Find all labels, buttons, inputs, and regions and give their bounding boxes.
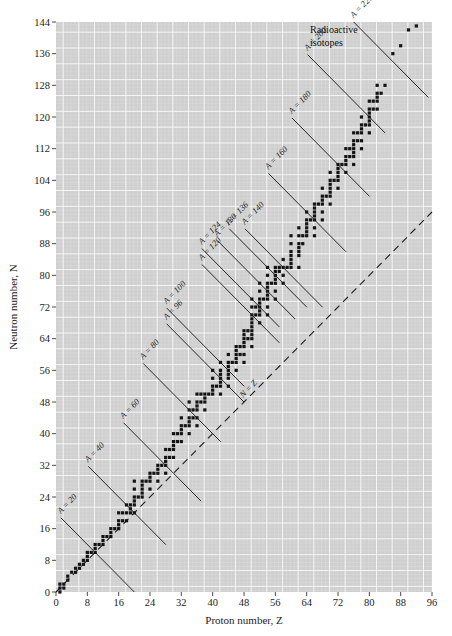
- data-point: [199, 400, 202, 403]
- data-point: [329, 195, 332, 198]
- data-point: [242, 345, 245, 348]
- data-point: [344, 147, 347, 150]
- data-point: [282, 282, 285, 285]
- data-point: [117, 519, 120, 522]
- data-point: [235, 361, 238, 364]
- data-point: [188, 420, 191, 423]
- data-point: [219, 377, 222, 380]
- x-tick-label: 8: [85, 597, 90, 608]
- data-point: [141, 480, 144, 483]
- data-point: [227, 377, 230, 380]
- data-point: [250, 325, 253, 328]
- data-point: [219, 373, 222, 376]
- data-point: [321, 187, 324, 190]
- data-point: [180, 432, 183, 435]
- data-point: [215, 385, 218, 388]
- data-point: [125, 511, 128, 514]
- data-point: [235, 357, 238, 360]
- data-point: [274, 270, 277, 273]
- data-point: [399, 44, 402, 47]
- y-tick-label: 32: [40, 460, 51, 471]
- data-point: [184, 424, 187, 427]
- x-tick-label: 32: [176, 597, 187, 608]
- data-point: [211, 369, 214, 372]
- data-point: [188, 424, 191, 427]
- data-point: [301, 242, 304, 245]
- data-point: [360, 115, 363, 118]
- data-point: [258, 290, 261, 293]
- data-point: [313, 226, 316, 229]
- data-point: [274, 266, 277, 269]
- data-point: [203, 400, 206, 403]
- data-point: [242, 333, 245, 336]
- data-point: [352, 139, 355, 142]
- y-tick-label: 24: [40, 492, 51, 503]
- data-point: [86, 559, 89, 562]
- data-point: [148, 476, 151, 479]
- data-point: [250, 317, 253, 320]
- data-point: [94, 551, 97, 554]
- radioactive-isotopes-label-line2: isotopes: [310, 37, 343, 48]
- data-point: [289, 250, 292, 253]
- data-point: [329, 171, 332, 174]
- data-point: [278, 270, 281, 273]
- data-point: [219, 361, 222, 364]
- data-point: [266, 305, 269, 308]
- x-tick-label: 16: [113, 597, 124, 608]
- x-axis-title: Proton number, Z: [205, 614, 283, 626]
- data-point: [305, 222, 308, 225]
- data-point: [285, 266, 288, 269]
- x-tick-label: 40: [207, 597, 218, 608]
- data-point: [195, 416, 198, 419]
- data-point: [305, 230, 308, 233]
- data-point: [321, 218, 324, 221]
- data-point: [332, 179, 335, 182]
- data-point: [289, 242, 292, 245]
- data-point: [164, 464, 167, 467]
- data-point: [289, 258, 292, 261]
- data-point: [336, 167, 339, 170]
- data-point: [133, 499, 136, 502]
- y-tick-label: 96: [40, 207, 51, 218]
- data-point: [258, 305, 261, 308]
- data-point: [74, 567, 77, 570]
- data-point: [242, 329, 245, 332]
- data-point: [129, 511, 132, 514]
- data-point: [133, 503, 136, 506]
- data-point: [305, 218, 308, 221]
- data-point: [352, 151, 355, 154]
- radioactive-isotopes-label-line1: Radioactive: [310, 24, 358, 35]
- data-point: [156, 480, 159, 483]
- data-point: [329, 183, 332, 186]
- data-point: [117, 527, 120, 530]
- data-point: [376, 92, 379, 95]
- data-point: [74, 571, 77, 574]
- chart-root: 0816243240485664728088961041121201281361…: [0, 0, 452, 636]
- data-point: [368, 115, 371, 118]
- data-point: [360, 147, 363, 150]
- data-point: [266, 294, 269, 297]
- data-point: [199, 392, 202, 395]
- data-point: [101, 539, 104, 542]
- data-point: [356, 139, 359, 142]
- data-point: [211, 392, 214, 395]
- data-point: [274, 274, 277, 277]
- data-point: [238, 353, 241, 356]
- data-point: [258, 282, 261, 285]
- data-point: [101, 543, 104, 546]
- y-tick-label: 48: [40, 397, 51, 408]
- data-point: [376, 84, 379, 87]
- data-point: [329, 179, 332, 182]
- data-point: [62, 586, 65, 589]
- data-point: [235, 349, 238, 352]
- data-point: [376, 96, 379, 99]
- data-point: [360, 131, 363, 134]
- data-point: [313, 210, 316, 213]
- data-point: [250, 313, 253, 316]
- data-point: [156, 472, 159, 475]
- y-tick-label: 144: [34, 17, 51, 28]
- data-point: [168, 448, 171, 451]
- data-point: [164, 456, 167, 459]
- data-point: [313, 214, 316, 217]
- x-tick-label: 80: [364, 597, 375, 608]
